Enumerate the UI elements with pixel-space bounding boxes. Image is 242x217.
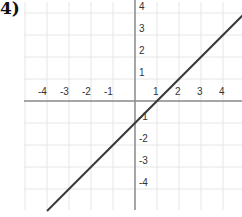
y-tick-label: 1 bbox=[139, 67, 145, 78]
x-tick-label: -4 bbox=[38, 86, 47, 97]
x-tick-label: 4 bbox=[219, 86, 225, 97]
y-tick-label: -2 bbox=[139, 133, 148, 144]
y-tick-label: -3 bbox=[139, 155, 148, 166]
x-tick-label: 1 bbox=[153, 86, 159, 97]
line-graph: -4-3-2-112344321-1-2-3-4 bbox=[0, 0, 242, 217]
y-tick-label: 4 bbox=[139, 1, 145, 12]
x-tick-label: -2 bbox=[82, 86, 91, 97]
x-tick-label: 2 bbox=[175, 86, 181, 97]
y-tick-label: 2 bbox=[139, 45, 145, 56]
y-tick-label: -4 bbox=[139, 177, 148, 188]
y-tick-label: 3 bbox=[139, 23, 145, 34]
x-tick-label: -3 bbox=[60, 86, 69, 97]
x-tick-label: -1 bbox=[104, 86, 113, 97]
x-tick-label: 3 bbox=[197, 86, 203, 97]
